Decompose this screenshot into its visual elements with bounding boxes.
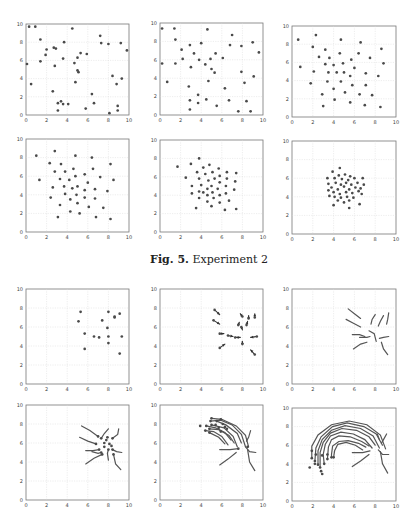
y-tick-label: 4 (20, 459, 23, 465)
agent-dot (109, 163, 112, 166)
agent-dot (119, 42, 122, 45)
agent-dot (108, 443, 111, 446)
x-tick-label: 0 (24, 502, 27, 508)
agent-dot (229, 44, 232, 47)
agent-dot (360, 193, 363, 196)
y-tick-label: 4 (154, 343, 157, 349)
x-tick-label: 4 (66, 117, 69, 123)
agent-dot (75, 193, 78, 196)
agent-dot (213, 309, 216, 312)
y-tick-label: 2 (20, 362, 23, 368)
agent-dot (102, 206, 105, 209)
agent-dot (318, 56, 321, 59)
agent-dot (377, 75, 380, 78)
y-tick-label: 10 (17, 136, 23, 142)
x-tick-label: 0 (158, 386, 161, 392)
agent-dot (245, 100, 248, 103)
agent-dot (120, 77, 123, 80)
y-tick-label: 4 (20, 75, 23, 81)
agent-dot (94, 188, 97, 191)
y-tick-label: 8 (286, 423, 289, 429)
agent-dot (93, 335, 96, 338)
agent-dot (115, 83, 118, 86)
agent-dot (333, 98, 336, 101)
agent-dot (112, 453, 115, 456)
y-tick-label: 6 (20, 324, 23, 330)
agent-dot (217, 167, 220, 170)
agent-dot (99, 176, 102, 179)
agent-dot (240, 70, 243, 73)
agent-dot (193, 52, 196, 55)
agent-dot (216, 187, 219, 190)
agent-dot (362, 183, 365, 186)
x-tick-label: 6 (353, 386, 356, 392)
agent-dot (354, 186, 357, 189)
y-tick-label: 8 (154, 305, 157, 311)
figure-title: Experiment 2 (192, 253, 268, 266)
agent-dot (349, 175, 352, 178)
agent-dot (212, 197, 215, 200)
x-tick-label: 0 (290, 503, 293, 509)
y-tick-label: 0 (154, 497, 157, 503)
agent-dot (111, 75, 114, 78)
agent-dot (343, 185, 346, 188)
agent-dot (79, 52, 82, 55)
y-tick-label: 10 (283, 405, 289, 411)
agent-dot (234, 336, 237, 339)
x-tick-label: 4 (332, 119, 335, 125)
agent-dot (60, 100, 63, 103)
agent-dot (112, 179, 115, 182)
x-tick-label: 10 (126, 502, 132, 508)
x-tick-label: 6 (220, 234, 223, 240)
agent-dot (225, 192, 228, 195)
x-tick-label: 6 (353, 119, 356, 125)
agent-dot (62, 103, 65, 106)
agent-dot (98, 448, 101, 451)
x-tick-label: 4 (332, 386, 335, 392)
agent-dot (74, 175, 77, 178)
axes-box (26, 289, 129, 384)
agent-dot (219, 418, 222, 421)
x-tick-label: 10 (126, 234, 132, 240)
agent-dot (83, 348, 86, 351)
plot-panel-11: 02468100246810 (151, 402, 267, 508)
agent-dot (107, 43, 110, 46)
agent-dot (30, 83, 33, 86)
agent-dot (64, 170, 67, 173)
x-tick-label: 8 (241, 234, 244, 240)
agent-dot (344, 173, 347, 176)
agent-dot (252, 75, 255, 78)
agent-dot (57, 216, 60, 219)
agent-dot (200, 184, 203, 187)
y-tick-label: 6 (154, 57, 157, 63)
y-tick-label: 4 (286, 77, 289, 83)
agent-dot (332, 64, 335, 67)
agent-dot (53, 150, 56, 153)
agent-dot (333, 195, 336, 198)
agent-dot (118, 312, 121, 315)
y-tick-label: 4 (20, 192, 23, 198)
agent-dot (251, 41, 254, 44)
x-tick-label: 8 (374, 236, 377, 242)
agent-dot (308, 466, 311, 469)
y-tick-label: 10 (17, 21, 23, 27)
agent-dot (197, 93, 200, 96)
agent-dot (209, 58, 212, 61)
y-tick-label: 8 (20, 39, 23, 45)
agent-dot (336, 188, 339, 191)
agent-dot (181, 58, 184, 61)
agent-dot (63, 41, 66, 44)
y-tick-label: 0 (286, 114, 289, 120)
axes-box (292, 289, 396, 384)
x-tick-label: 4 (66, 234, 69, 240)
agent-dot (258, 51, 261, 54)
agent-dot (51, 186, 54, 189)
agent-dot (314, 460, 317, 463)
agent-dot (332, 204, 335, 207)
y-tick-label: 6 (286, 175, 289, 181)
y-tick-label: 0 (286, 381, 289, 387)
agent-dot (113, 315, 116, 318)
agent-dot (205, 425, 208, 428)
agent-dot (320, 470, 323, 473)
agent-dot (191, 192, 194, 195)
